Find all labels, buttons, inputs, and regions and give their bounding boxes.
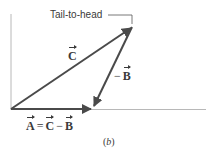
vector-b-symbol: B — [123, 70, 131, 82]
vector-b-symbol-eq: B — [65, 120, 73, 132]
vector-a-symbol: A — [26, 120, 35, 132]
vector-c-label: C — [68, 50, 77, 62]
vector-minus-b-label: −B — [112, 70, 131, 82]
vector-c-symbol: C — [68, 50, 77, 62]
minus-sign: − — [112, 69, 123, 83]
vector-c-symbol-eq: C — [45, 120, 54, 132]
tail-to-head-label: Tail-to-head — [50, 9, 102, 20]
figure-caption: (b) — [103, 136, 115, 147]
minus-sign-eq: − — [54, 119, 65, 133]
caption-close-paren: ) — [111, 136, 114, 147]
equation-label: A=C−B — [26, 120, 73, 132]
tail-to-head-pointer — [108, 15, 132, 24]
equals-sign: = — [35, 119, 46, 133]
